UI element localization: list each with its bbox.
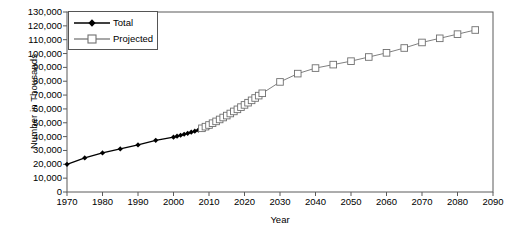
data-point-marker [401, 45, 408, 52]
chart-figure: Number in Thousands 010,00020,00030,0004… [0, 0, 510, 234]
data-point-marker [419, 39, 426, 46]
legend-label-projected: Projected [113, 33, 153, 45]
chart-legend: Total Projected [68, 11, 158, 50]
data-point-marker [436, 35, 443, 42]
data-point-marker [365, 54, 372, 61]
data-point-marker [100, 150, 105, 155]
series-line [202, 30, 475, 128]
data-point-marker [472, 27, 479, 34]
data-point-marker [153, 138, 158, 143]
series-projected [199, 27, 479, 132]
data-point-marker [454, 31, 461, 38]
legend-swatch-total-icon [73, 15, 111, 31]
legend-swatch-projected-icon [73, 31, 111, 47]
data-point-marker [277, 79, 284, 86]
data-point-marker [330, 61, 337, 68]
data-point-marker [383, 50, 390, 57]
legend-entry-projected: Projected [69, 31, 159, 47]
legend-label-total: Total [113, 17, 133, 29]
data-point-marker [82, 155, 87, 160]
data-point-marker [294, 70, 301, 77]
series-total [64, 124, 211, 167]
data-point-marker [312, 65, 319, 72]
data-point-marker [259, 90, 266, 97]
data-point-marker [118, 146, 123, 151]
data-point-marker [348, 58, 355, 65]
data-point-marker [135, 142, 140, 147]
data-point-marker [64, 162, 69, 167]
legend-entry-total: Total [69, 15, 159, 31]
